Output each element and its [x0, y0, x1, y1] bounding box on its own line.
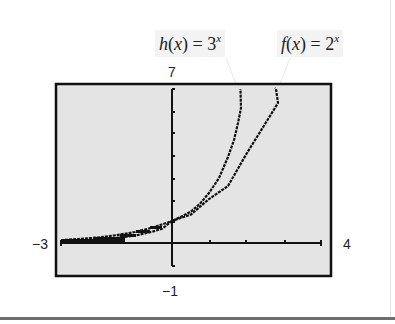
asymptote-step: [120, 234, 136, 237]
bottom-rule: [0, 317, 395, 320]
calculator-graph: [0, 0, 395, 324]
asymptote-step-2: [136, 230, 150, 233]
asymptote-bar-2: [95, 237, 125, 240]
f-leader-line: [280, 58, 290, 84]
asymptote-step-3: [150, 226, 162, 229]
graph-screen: [56, 84, 331, 276]
right-rule: [390, 0, 391, 318]
h-leader-line: [226, 58, 236, 84]
